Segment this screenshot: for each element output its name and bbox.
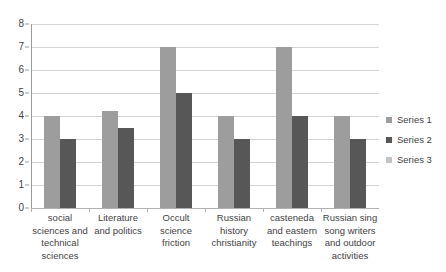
bar-group [89,24,147,208]
bar-series-1 [44,116,60,208]
bar-series-2 [350,139,366,208]
bar-group-bars [263,24,321,208]
bar-group [147,24,205,208]
bar-series-1 [218,116,234,208]
y-tick-label-3: 3 [18,134,24,144]
y-axis-ticks: 012345678 [0,24,29,208]
y-tick-mark-1 [25,185,29,186]
bar-series-2 [292,116,308,208]
legend-swatch-icon [386,137,392,143]
bar-group [31,24,89,208]
y-tick-mark-4 [25,116,29,117]
y-tick-mark-7 [25,47,29,48]
bar-series-2 [118,128,134,209]
y-tick-label-0: 0 [18,203,24,213]
plot-area [31,24,379,208]
y-tick-label-6: 6 [18,65,24,75]
legend-item[interactable]: Series 2 [386,134,432,145]
bar-series-2 [60,139,76,208]
x-axis-category-label: Occult science friction [147,212,205,262]
bar-series-1 [102,111,118,208]
legend-item[interactable]: Series 3 [386,154,432,165]
legend-item-label: Series 3 [397,154,432,165]
legend-item-label: Series 1 [397,114,432,125]
y-tick-label-8: 8 [18,19,24,29]
bar-chart: 012345678 social sciences and technical … [0,0,446,272]
y-tick-mark-0 [25,208,29,209]
bar-group [321,24,379,208]
bar-series-1 [160,47,176,208]
x-axis-category-label: Russian history christianity [205,212,263,262]
y-tick-mark-6 [25,70,29,71]
y-tick-mark-5 [25,93,29,94]
y-tick-label-4: 4 [18,111,24,121]
y-tick-label-2: 2 [18,157,24,167]
x-axis-category-labels: social sciences and technical sciencesLi… [31,212,379,262]
x-axis-category-label: social sciences and technical sciences [31,212,89,262]
legend-swatch-icon [386,157,392,163]
bar-group-bars [147,24,205,208]
y-tick-label-5: 5 [18,88,24,98]
legend-swatch-icon [386,117,392,123]
y-tick-mark-2 [25,162,29,163]
bar-group-bars [89,24,147,208]
bar-group [205,24,263,208]
bar-group-bars [31,24,89,208]
bar-series-2 [234,139,250,208]
y-tick-mark-3 [25,139,29,140]
bar-series-2 [176,93,192,208]
x-axis-category-label: casteneda and eastern teachings [263,212,321,262]
y-tick-label-1: 1 [18,180,24,190]
bar-group [263,24,321,208]
bar-groups [31,24,379,208]
x-axis-category-label: Russian sing song writers and outdoor ac… [321,212,379,262]
legend: Series 1Series 2Series 3 [386,114,432,174]
legend-item-label: Series 2 [397,134,432,145]
bar-group-bars [321,24,379,208]
y-tick-mark-8 [25,24,29,25]
bar-series-1 [276,47,292,208]
legend-item[interactable]: Series 1 [386,114,432,125]
bar-series-1 [334,116,350,208]
bar-group-bars [205,24,263,208]
y-tick-label-7: 7 [18,42,24,52]
x-axis-category-label: Literature and politics [89,212,147,262]
